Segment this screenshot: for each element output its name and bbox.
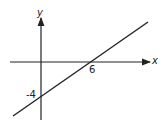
y-intercept-label: -4: [26, 90, 36, 100]
y-axis-label: y: [37, 8, 43, 18]
graph-line: [13, 22, 148, 116]
x-intercept-label: 6: [89, 65, 95, 75]
graph-canvas: [0, 0, 167, 126]
x-axis-label: x: [152, 56, 158, 66]
